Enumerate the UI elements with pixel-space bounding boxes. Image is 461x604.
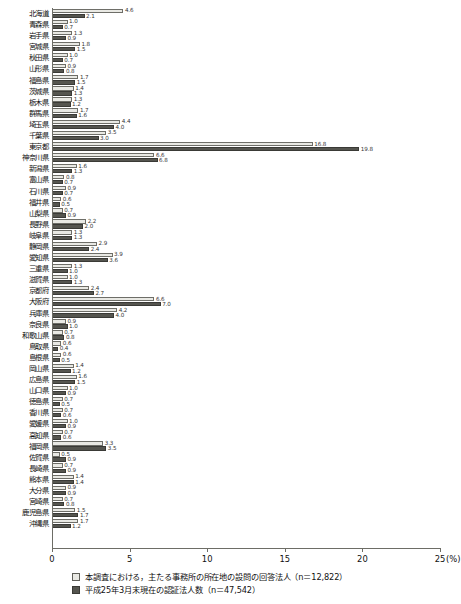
bar-group: 1.31.0 bbox=[52, 263, 453, 274]
bar-certified bbox=[52, 324, 68, 328]
bar-group: 1.01.3 bbox=[52, 274, 453, 285]
prefecture-label: 新潟県 bbox=[0, 163, 52, 174]
bar-survey bbox=[52, 131, 106, 135]
bar-survey bbox=[52, 330, 63, 334]
bar-survey bbox=[52, 308, 117, 312]
bar-certified bbox=[52, 380, 75, 384]
prefecture-label: 宮城県 bbox=[0, 41, 52, 52]
bar-certified bbox=[52, 480, 74, 484]
x-tick-label: 20 bbox=[357, 554, 368, 564]
bar-group: 0.90.8 bbox=[52, 63, 453, 74]
bar-certified bbox=[52, 424, 66, 428]
chart-row: 大阪府6.67.0 bbox=[0, 296, 453, 307]
bar-value-certified: 1.2 bbox=[72, 524, 81, 530]
chart-legend: 本調査における，主たる事務所の所在地の設問の回答法人（n＝12,822） 平成2… bbox=[72, 570, 442, 596]
chart-row: 香川県0.70.6 bbox=[0, 407, 453, 418]
plot-area: 北海道4.62.1青森県1.00.7岩手県1.30.9宮城県1.81.5秋田県1… bbox=[0, 8, 453, 548]
prefecture-label: 和歌山県 bbox=[0, 330, 52, 341]
bar-group: 0.70.6 bbox=[52, 430, 453, 441]
chart-row: 島根県0.60.5 bbox=[0, 352, 453, 363]
bar-group: 1.00.9 bbox=[52, 385, 453, 396]
bar-group: 1.31.2 bbox=[52, 97, 453, 108]
bar-group: 1.71.2 bbox=[52, 518, 453, 529]
bar-certified bbox=[52, 213, 66, 217]
bar-survey bbox=[52, 452, 60, 456]
bar-group: 1.41.3 bbox=[52, 86, 453, 97]
bar-group: 0.70.8 bbox=[52, 330, 453, 341]
chart-row: 山梨県0.70.9 bbox=[0, 208, 453, 219]
bar-value-survey: 4.6 bbox=[125, 8, 134, 14]
chart-row: 岡山県1.41.2 bbox=[0, 363, 453, 374]
bar-group: 0.70.8 bbox=[52, 496, 453, 507]
bar-survey bbox=[52, 353, 61, 357]
x-tick-label: 15 bbox=[279, 554, 290, 564]
bar-certified bbox=[52, 14, 85, 18]
chart-row: 富山県0.80.7 bbox=[0, 174, 453, 185]
chart-row: 神奈川県6.66.8 bbox=[0, 152, 453, 163]
prefecture-label: 沖縄県 bbox=[0, 518, 52, 529]
legend-swatch-dark-icon bbox=[72, 586, 80, 594]
bar-survey bbox=[52, 408, 63, 412]
bar-certified bbox=[52, 358, 60, 362]
bar-survey bbox=[52, 97, 72, 101]
legend-item-certified: 平成25年3月末現在の認証法人数（n＝47,542） bbox=[72, 583, 442, 596]
chart-row: 福井県0.60.5 bbox=[0, 197, 453, 208]
prefecture-label: 岡山県 bbox=[0, 363, 52, 374]
prefecture-label: 奈良県 bbox=[0, 319, 52, 330]
prefecture-label: 千葉県 bbox=[0, 130, 52, 141]
bar-group: 1.41.4 bbox=[52, 474, 453, 485]
bar-group: 2.92.4 bbox=[52, 241, 453, 252]
prefecture-label: 石川県 bbox=[0, 186, 52, 197]
prefecture-label: 大阪府 bbox=[0, 296, 52, 307]
bar-group: 0.80.7 bbox=[52, 174, 453, 185]
bar-certified bbox=[52, 391, 66, 395]
bar-group: 6.66.8 bbox=[52, 152, 453, 163]
prefecture-label: 神奈川県 bbox=[0, 152, 52, 163]
prefecture-label: 富山県 bbox=[0, 174, 52, 185]
prefecture-label: 島根県 bbox=[0, 352, 52, 363]
bar-certified bbox=[52, 147, 359, 151]
x-axis-unit: (%) bbox=[446, 554, 461, 564]
bar-survey bbox=[52, 120, 120, 124]
prefecture-label: 愛知県 bbox=[0, 252, 52, 263]
bar-survey bbox=[52, 153, 154, 157]
chart-row: 宮崎県0.70.8 bbox=[0, 496, 453, 507]
x-tick-label: 0 bbox=[49, 554, 54, 564]
bar-value-survey: 16.8 bbox=[314, 142, 326, 148]
bar-group: 1.00.7 bbox=[52, 19, 453, 30]
prefecture-label: 山梨県 bbox=[0, 208, 52, 219]
prefecture-label: 熊本県 bbox=[0, 474, 52, 485]
bar-survey bbox=[52, 253, 113, 257]
chart-row: 岐阜県1.31.3 bbox=[0, 230, 453, 241]
chart-row: 東京都16.819.8 bbox=[0, 141, 453, 152]
bar-survey bbox=[52, 386, 68, 390]
prefecture-label: 香川県 bbox=[0, 407, 52, 418]
bar-group: 2.22.0 bbox=[52, 219, 453, 230]
prefecture-label: 徳島県 bbox=[0, 396, 52, 407]
prefecture-label: 群馬県 bbox=[0, 108, 52, 119]
chart-row: 和歌山県0.70.8 bbox=[0, 330, 453, 341]
bar-group: 0.91.0 bbox=[52, 319, 453, 330]
prefecture-label: 福島県 bbox=[0, 75, 52, 86]
prefecture-label: 長野県 bbox=[0, 219, 52, 230]
bar-group: 1.61.3 bbox=[52, 163, 453, 174]
bar-group: 1.51.7 bbox=[52, 507, 453, 518]
bar-group: 0.90.9 bbox=[52, 485, 453, 496]
x-tick-mark bbox=[440, 548, 441, 552]
chart-row: 三重県1.31.0 bbox=[0, 263, 453, 274]
chart-row: 京都府2.42.7 bbox=[0, 285, 453, 296]
bar-certified bbox=[52, 169, 72, 173]
chart-row: 山口県1.00.9 bbox=[0, 385, 453, 396]
bar-certified bbox=[52, 446, 106, 450]
chart-row: 滋賀県1.01.3 bbox=[0, 274, 453, 285]
bar-survey bbox=[52, 64, 66, 68]
prefecture-label: 福岡県 bbox=[0, 441, 52, 452]
bar-survey bbox=[52, 219, 86, 223]
prefecture-label: 秋田県 bbox=[0, 52, 52, 63]
bar-group: 0.60.4 bbox=[52, 341, 453, 352]
bar-group: 4.24.0 bbox=[52, 308, 453, 319]
legend-label-certified: 平成25年3月末現在の認証法人数（n＝47,542） bbox=[85, 585, 260, 595]
prefecture-label: 茨城県 bbox=[0, 86, 52, 97]
bar-certified bbox=[52, 180, 63, 184]
